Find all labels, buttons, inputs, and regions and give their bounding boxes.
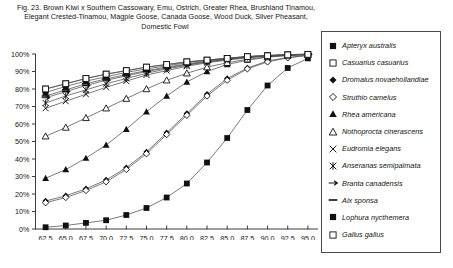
legend-item-3[interactable]: Struthio camelus bbox=[322, 89, 440, 106]
legend-item-label: Casuarius casuarius bbox=[342, 58, 408, 67]
x-tick-label: 80.0 bbox=[180, 234, 194, 241]
data-point-filled-square bbox=[204, 160, 210, 166]
data-point-open-triangle bbox=[143, 86, 150, 92]
data-point-open-square bbox=[265, 53, 271, 59]
data-point-filled-diamond bbox=[329, 76, 336, 83]
legend-item-11[interactable]: Gallus gallus bbox=[322, 226, 440, 243]
star-cross-icon bbox=[328, 160, 342, 172]
data-point-open-square bbox=[43, 86, 49, 92]
data-point-filled-triangle bbox=[143, 108, 150, 114]
data-point-filled-square bbox=[285, 65, 291, 71]
x-tick-label: 82.5 bbox=[200, 234, 214, 241]
data-point-open-square bbox=[204, 57, 210, 63]
data-point-open-diamond bbox=[244, 66, 250, 72]
legend-item-6[interactable]: Eudromia elegans bbox=[322, 140, 440, 157]
legend-item-label: Branta canadensis bbox=[342, 179, 403, 188]
filled-diamond-icon bbox=[328, 74, 342, 86]
legend-item-0[interactable]: Apteryx australis bbox=[322, 37, 440, 54]
data-point-open-square bbox=[285, 52, 291, 58]
data-point-open-square bbox=[164, 62, 170, 68]
data-point-open-diamond bbox=[329, 94, 336, 101]
data-point-open-square bbox=[103, 71, 109, 77]
data-point-open-triangle bbox=[103, 105, 110, 111]
y-tick-label: 70% bbox=[15, 102, 30, 111]
data-point-star-cross bbox=[330, 162, 337, 170]
dash-icon bbox=[328, 194, 342, 206]
x-tick-label: 75.0 bbox=[139, 234, 153, 241]
caption-line-1: Fig. 23. Brown Kiwi x Southern Cassowary… bbox=[2, 3, 330, 12]
legend-item-8[interactable]: Branta canadensis bbox=[322, 175, 440, 192]
data-point-open-square bbox=[224, 55, 230, 61]
y-tick-label: 40% bbox=[15, 155, 30, 164]
series-2 bbox=[42, 52, 311, 204]
legend-item-5[interactable]: Nothoprocta cinerascens bbox=[322, 123, 440, 140]
y-tick-label: 100% bbox=[11, 50, 30, 59]
y-tick-label: 30% bbox=[15, 172, 30, 181]
open-diamond-icon bbox=[328, 91, 342, 103]
y-tick-label: 20% bbox=[15, 190, 30, 199]
data-point-filled-square bbox=[330, 42, 336, 48]
legend-item-label: Apteryx australis bbox=[342, 41, 396, 50]
legend-item-10[interactable]: Lophura nycthemera bbox=[322, 209, 440, 226]
legend-item-label: Gallus gallus bbox=[342, 230, 384, 239]
x-tick-label: 87.5 bbox=[240, 234, 254, 241]
x-tick-label: 70.0 bbox=[99, 234, 113, 241]
y-tick-label: 90% bbox=[15, 67, 30, 76]
data-point-star-cross bbox=[43, 100, 49, 107]
chart-legend: Apteryx australisCasuarius casuariusDrom… bbox=[321, 31, 441, 253]
x-tick-label: 67.5 bbox=[79, 234, 93, 241]
data-point-dash-arrow bbox=[329, 181, 338, 185]
data-point-open-square bbox=[63, 81, 69, 87]
data-point-open-triangle bbox=[42, 133, 49, 139]
figure-caption: Fig. 23. Brown Kiwi x Southern Cassowary… bbox=[0, 3, 330, 31]
x-tick-label: 62.5 bbox=[39, 234, 53, 241]
data-point-filled-square bbox=[63, 223, 69, 229]
data-point-open-square bbox=[144, 64, 150, 70]
x-tick-label: 95.0 bbox=[301, 234, 315, 241]
x-tick-label: 92.5 bbox=[281, 234, 295, 241]
data-point-open-triangle bbox=[83, 114, 90, 120]
data-point-star-cross bbox=[83, 86, 89, 93]
data-point-filled-square bbox=[224, 135, 230, 141]
data-point-open-triangle bbox=[62, 124, 69, 130]
data-point-filled-square bbox=[244, 107, 250, 113]
data-point-filled-square bbox=[43, 224, 49, 230]
data-point-filled-triangle bbox=[62, 166, 69, 172]
data-point-filled-triangle bbox=[83, 155, 90, 161]
data-point-open-triangle bbox=[329, 128, 337, 135]
data-point-filled-triangle bbox=[103, 142, 110, 148]
data-point-star-cross bbox=[63, 93, 69, 100]
data-point-open-square bbox=[184, 59, 190, 65]
data-point-open-triangle bbox=[123, 95, 130, 101]
legend-item-label: Nothoprocta cinerascens bbox=[342, 127, 423, 136]
filled-square-icon bbox=[328, 211, 342, 223]
axes: 0%10%20%30%40%50%60%70%80%90%100%62.565.… bbox=[11, 50, 318, 240]
data-point-open-triangle bbox=[163, 77, 170, 83]
data-point-filled-square bbox=[330, 214, 336, 220]
data-point-open-square bbox=[123, 68, 129, 74]
legend-item-7[interactable]: Anseranas semipalmata bbox=[322, 157, 440, 174]
data-point-open-square bbox=[330, 60, 336, 66]
legend-item-label: Aix sponsa bbox=[342, 196, 378, 205]
data-point-filled-triangle bbox=[183, 79, 190, 85]
legend-item-1[interactable]: Casuarius casuarius bbox=[322, 54, 440, 71]
open-square-icon bbox=[328, 229, 342, 241]
open-square-icon bbox=[328, 57, 342, 69]
data-point-x-cross bbox=[330, 145, 337, 152]
x-tick-label: 65.0 bbox=[59, 234, 73, 241]
chart-svg: 0%10%20%30%40%50%60%70%80%90%100%62.565.… bbox=[0, 40, 322, 240]
legend-item-4[interactable]: Rhea americana bbox=[322, 106, 440, 123]
data-point-filled-triangle bbox=[163, 93, 170, 99]
data-point-open-square bbox=[83, 76, 89, 82]
data-point-filled-square bbox=[164, 195, 170, 201]
legend-item-9[interactable]: Aix sponsa bbox=[322, 192, 440, 209]
data-point-filled-square bbox=[265, 83, 271, 89]
data-point-open-square bbox=[244, 54, 250, 60]
data-point-open-square bbox=[330, 232, 336, 238]
open-triangle-icon bbox=[328, 126, 342, 138]
legend-item-2[interactable]: Dromaius novaehollandiae bbox=[322, 71, 440, 88]
data-point-filled-square bbox=[103, 217, 109, 223]
legend-item-label: Dromaius novaehollandiae bbox=[342, 75, 429, 84]
plot-area: 0%10%20%30%40%50%60%70%80%90%100%62.565.… bbox=[0, 40, 322, 240]
data-point-filled-square bbox=[144, 205, 150, 211]
